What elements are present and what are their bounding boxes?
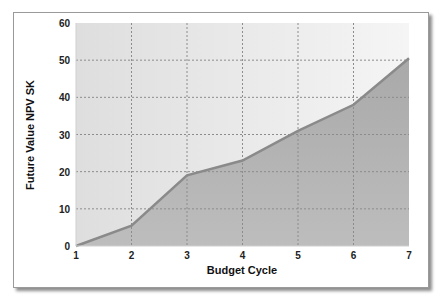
- y-tick-label: 50: [59, 55, 71, 66]
- y-axis-title: Future Value NPV SK: [24, 80, 36, 190]
- y-axis-ticks: 0102030405060: [59, 18, 71, 252]
- y-tick-label: 30: [59, 130, 71, 141]
- y-tick-label: 20: [59, 167, 71, 178]
- x-axis-ticks: 1234567: [73, 250, 412, 261]
- y-tick-label: 0: [64, 241, 70, 252]
- x-tick-label: 1: [73, 250, 79, 261]
- x-tick-label: 7: [406, 250, 412, 261]
- x-tick-label: 6: [351, 250, 357, 261]
- x-tick-label: 2: [129, 250, 135, 261]
- y-tick-label: 60: [59, 18, 71, 29]
- x-tick-label: 5: [295, 250, 301, 261]
- x-axis-title: Budget Cycle: [207, 264, 277, 276]
- x-tick-label: 4: [240, 250, 246, 261]
- y-tick-label: 10: [59, 204, 71, 215]
- x-tick-label: 3: [184, 250, 190, 261]
- y-tick-label: 40: [59, 92, 71, 103]
- area-chart: 0102030405060 1234567 Budget Cycle Futur…: [0, 0, 442, 298]
